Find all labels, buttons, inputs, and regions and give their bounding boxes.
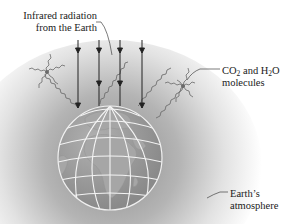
earth-globe [58, 106, 162, 210]
formula-co: CO [222, 65, 237, 76]
label-infrared-line2: from the Earth [15, 22, 97, 34]
greenhouse-diagram: Infrared radiation from the Earth CO2 an… [0, 0, 303, 224]
label-atmosphere-line1: Earth’s [230, 188, 278, 200]
label-atmosphere-line2: atmosphere [230, 200, 278, 212]
formula-and-h: and H [240, 65, 268, 76]
label-molecules-line1: CO2 and H2O [222, 65, 280, 77]
label-molecules-line2: molecules [222, 77, 280, 89]
label-infrared-radiation: Infrared radiation from the Earth [15, 10, 97, 34]
formula-o: O [272, 65, 280, 76]
label-molecules: CO2 and H2O molecules [222, 65, 280, 89]
label-infrared-line1: Infrared radiation [15, 10, 97, 22]
label-atmosphere: Earth’s atmosphere [230, 188, 278, 212]
